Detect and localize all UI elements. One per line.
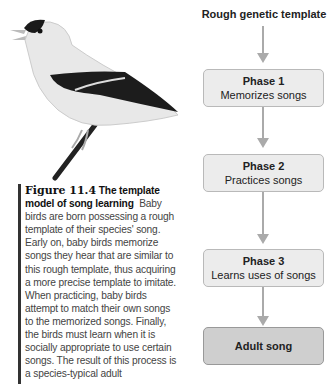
flowchart-title: Rough genetic template <box>196 8 332 20</box>
arrow-down-icon <box>257 234 269 244</box>
phase-1-box: Phase 1 Memorizes songs <box>203 69 324 107</box>
phase-desc: Practices songs <box>204 173 323 187</box>
bird-illustration <box>0 0 180 185</box>
arrow-down-icon <box>257 138 269 148</box>
phase-3-box: Phase 3 Learns uses of songs <box>203 249 324 287</box>
phase-desc: Memorizes songs <box>204 88 323 102</box>
figure-caption: Figure 11.4 The template model of song l… <box>18 184 178 384</box>
phase-label: Phase 2 <box>204 159 323 173</box>
flow-arrow <box>262 287 264 319</box>
phase-desc: Learns uses of songs <box>204 268 323 282</box>
phase-2-box: Phase 2 Practices songs <box>203 154 324 192</box>
arrow-down-icon <box>257 53 269 63</box>
flow-arrow <box>262 192 264 238</box>
phase-label: Phase 1 <box>204 74 323 88</box>
caption-body: Baby birds are born possessing a rough t… <box>25 198 176 379</box>
arrow-down-icon <box>257 316 269 326</box>
final-label: Adult song <box>204 339 323 353</box>
adult-song-box: Adult song <box>203 327 324 365</box>
figure-number: Figure 11.4 <box>25 184 96 197</box>
flow-arrow <box>262 107 264 141</box>
phase-label: Phase 3 <box>204 254 323 268</box>
flow-arrow <box>262 26 264 56</box>
